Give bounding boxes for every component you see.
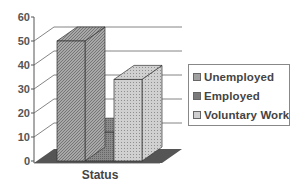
- legend-swatch-unemployed-icon: [193, 73, 201, 81]
- legend-label: Voluntary Work: [204, 109, 289, 121]
- legend-label: Employed: [204, 90, 260, 102]
- bars: [57, 27, 162, 161]
- legend-item-unemployed: Unemployed: [193, 70, 274, 84]
- y-tick-label: 0: [24, 155, 30, 167]
- y-tick-label: 50: [18, 35, 30, 47]
- legend-label: Unemployed: [204, 71, 274, 83]
- legend-item-voluntary-work: Voluntary Work: [193, 108, 289, 122]
- legend-swatch-voluntary-work-icon: [193, 111, 201, 119]
- bar-voluntary-work: [114, 65, 162, 161]
- y-tick-label: 30: [18, 83, 30, 95]
- y-tick-label: 20: [18, 107, 30, 119]
- x-axis-label: Status: [82, 168, 119, 182]
- y-tick-label: 40: [18, 59, 30, 71]
- legend-item-employed: Employed: [193, 89, 260, 103]
- y-tick-label: 60: [18, 11, 30, 23]
- legend-swatch-employed-icon: [193, 92, 201, 100]
- y-tick-label: 10: [18, 131, 30, 143]
- legend: Unemployed Employed Voluntary Work: [188, 64, 290, 126]
- bar-unemployed: [57, 27, 105, 161]
